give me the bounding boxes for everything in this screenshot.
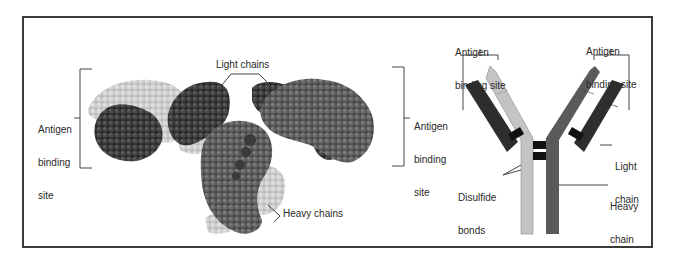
bracket-left: [80, 69, 92, 168]
hinge-sphere: [232, 172, 240, 180]
label-heavy-chain: Heavy chain: [610, 179, 638, 256]
disulfide-bond-heavy-2: [533, 152, 546, 160]
label-heavy-chains: Heavy chains: [283, 208, 343, 219]
label-light-chains: Light chains: [216, 59, 269, 70]
label-antigen-site-left: Antigen binding site: [38, 102, 72, 212]
label-disulfide-bonds: Disulfide bonds: [458, 170, 496, 247]
label-antigen-site-right: Antigen binding site: [414, 99, 448, 209]
bracket-right: [392, 67, 404, 166]
hinge-sphere: [235, 160, 245, 170]
hinge-sphere: [241, 147, 251, 157]
label-antigen-site-schematic-left: Antigen binding site: [455, 25, 506, 102]
antibody-diagram: [0, 0, 673, 262]
disulfide-leader: [503, 165, 521, 175]
hinge-sphere: [244, 134, 256, 146]
disulfide-bond-heavy-1: [533, 141, 546, 149]
label-antigen-site-schematic-right: Antigen binding site: [586, 24, 637, 101]
